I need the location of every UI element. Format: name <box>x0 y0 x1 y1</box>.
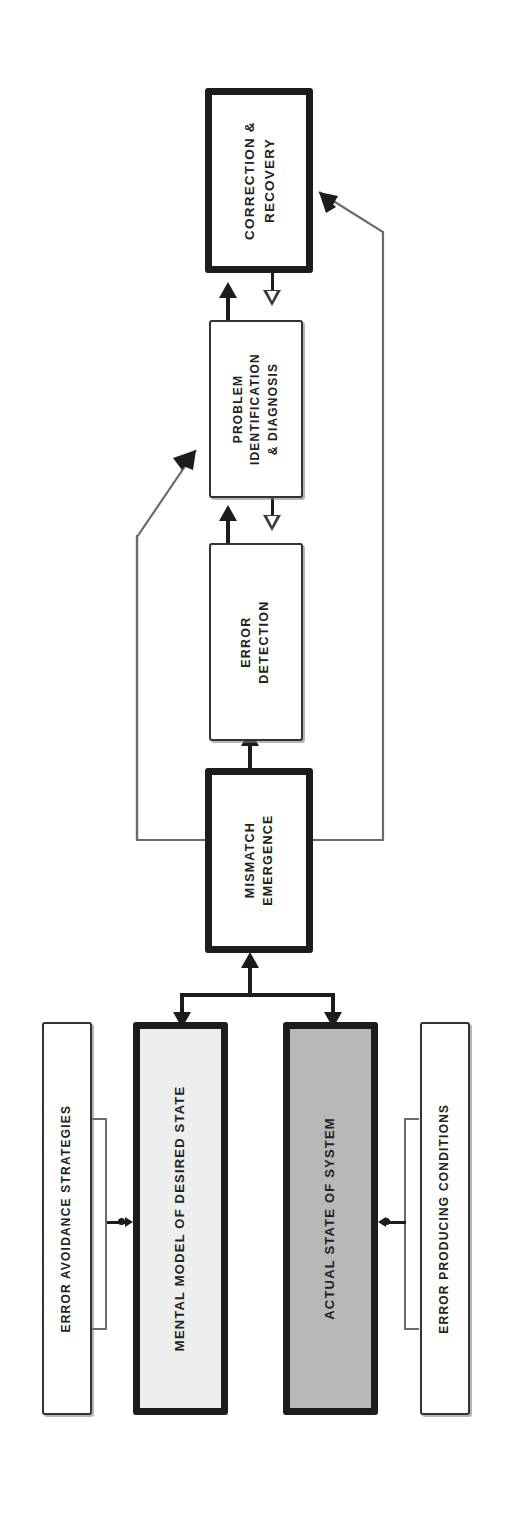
node-error-producing-conditions-label: ERROR PRODUCING CONDITIONS <box>436 1104 453 1334</box>
edge-problem-id-to-error-detection-line <box>271 497 274 517</box>
mismatch-to-correction-loop <box>313 192 383 840</box>
node-mental-model-of-desired-state-label: MENTAL MODEL OF DESIRED STATE <box>171 1086 190 1351</box>
node-mismatch-emergence[interactable]: MISMATCH EMERGENCE <box>205 768 313 953</box>
node-mismatch-emergence-label: MISMATCH EMERGENCE <box>241 815 277 906</box>
node-error-detection[interactable]: ERROR DETECTION <box>209 543 303 741</box>
mismatch-to-problem-id-loop <box>137 450 205 840</box>
edge-problem-id-to-error-detection-arrow <box>263 515 281 531</box>
node-error-producing-conditions[interactable]: ERROR PRODUCING CONDITIONS <box>420 1022 470 1415</box>
node-error-detection-label: ERROR DETECTION <box>238 600 274 683</box>
node-actual-state-of-system-label: ACTUAL STATE OF SYSTEM <box>321 1117 340 1320</box>
edge-junction-stem <box>248 965 252 995</box>
node-problem-identification-label: PROBLEM IDENTIFICATION & DIAGNOSIS <box>230 353 282 465</box>
edge-junction-bar <box>180 993 335 997</box>
edge-problem-id-to-correction-arrow <box>219 282 237 298</box>
edge-junction-to-actual-state-line <box>331 993 335 1014</box>
node-error-avoidance-strategies-label: ERROR AVOIDANCE STRATEGIES <box>58 1105 75 1333</box>
edge-junction-to-mental-model-line <box>180 993 184 1014</box>
node-actual-state-of-system[interactable]: ACTUAL STATE OF SYSTEM <box>283 1022 378 1415</box>
node-mental-model-of-desired-state[interactable]: MENTAL MODEL OF DESIRED STATE <box>133 1022 228 1415</box>
edge-error-detection-to-problem-id-arrow <box>219 505 237 521</box>
diagram-canvas: CORRECTION & RECOVERY PROBLEM IDENTIFICA… <box>0 0 514 1522</box>
edge-correction-to-problem-id-line <box>271 272 274 292</box>
node-problem-identification[interactable]: PROBLEM IDENTIFICATION & DIAGNOSIS <box>209 320 303 498</box>
node-correction-recovery-label: CORRECTION & RECOVERY <box>239 121 278 240</box>
edge-junction-to-mismatch-arrow <box>241 952 259 968</box>
node-error-avoidance-strategies[interactable]: ERROR AVOIDANCE STRATEGIES <box>42 1022 92 1415</box>
node-correction-recovery[interactable]: CORRECTION & RECOVERY <box>205 88 313 273</box>
edge-correction-to-problem-id-arrow <box>263 290 281 306</box>
